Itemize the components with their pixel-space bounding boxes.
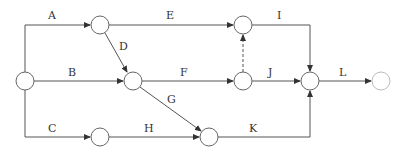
network-diagram: A B C D E F G H I J K L bbox=[0, 0, 399, 153]
node-8 bbox=[301, 72, 319, 90]
label-a: A bbox=[47, 9, 57, 22]
label-h: H bbox=[144, 122, 154, 135]
label-f: F bbox=[180, 66, 188, 79]
node-5 bbox=[200, 128, 218, 146]
node-1 bbox=[16, 72, 34, 90]
node-2 bbox=[91, 16, 109, 34]
node-6 bbox=[234, 16, 252, 34]
label-j: J bbox=[267, 66, 272, 79]
label-i: I bbox=[277, 9, 281, 22]
label-d: D bbox=[119, 40, 128, 53]
node-9 bbox=[372, 72, 390, 90]
node-3 bbox=[124, 72, 142, 90]
node-4 bbox=[91, 128, 109, 146]
label-c: C bbox=[48, 122, 56, 135]
label-b: B bbox=[68, 66, 76, 79]
edge-i bbox=[252, 25, 310, 71]
edge-c bbox=[25, 90, 90, 137]
label-l: L bbox=[339, 66, 347, 79]
label-e: E bbox=[166, 9, 174, 22]
edge-a bbox=[25, 25, 90, 72]
label-g: G bbox=[167, 93, 176, 106]
label-k: K bbox=[249, 122, 258, 135]
edge-k bbox=[218, 91, 310, 137]
node-7 bbox=[234, 72, 252, 90]
